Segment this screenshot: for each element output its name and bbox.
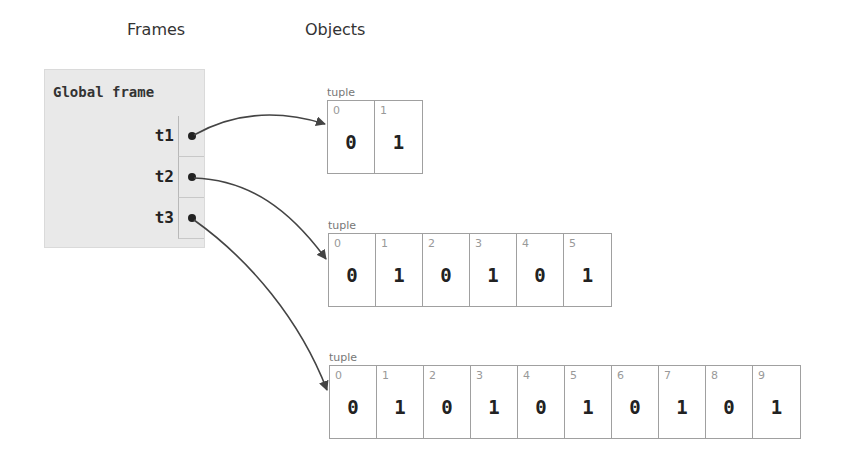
variable-name: t1 bbox=[155, 126, 174, 145]
cell-index: 0 bbox=[334, 237, 341, 250]
cell-index: 3 bbox=[475, 237, 482, 250]
tuple-cell: 11 bbox=[376, 234, 423, 306]
variable-row-t2: t2 bbox=[43, 157, 204, 198]
tuple-cell: 80 bbox=[706, 366, 753, 438]
cell-index: 0 bbox=[335, 369, 342, 382]
tuple-cells: 00 11 20 31 40 51 bbox=[328, 233, 612, 307]
cell-index: 5 bbox=[569, 237, 576, 250]
tuple-cell: 71 bbox=[659, 366, 706, 438]
tuple-cell: 51 bbox=[565, 366, 612, 438]
variable-slot bbox=[178, 198, 204, 239]
cell-value: 1 bbox=[377, 396, 423, 418]
tuple-object-1: tuple 00 11 bbox=[327, 100, 423, 174]
tuple-cell: 60 bbox=[612, 366, 659, 438]
cell-index: 8 bbox=[711, 369, 718, 382]
arrow-t1-icon bbox=[194, 115, 325, 135]
tuple-cell: 40 bbox=[518, 366, 565, 438]
variable-row-t1: t1 bbox=[43, 116, 204, 157]
cell-index: 1 bbox=[382, 369, 389, 382]
cell-value: 1 bbox=[376, 264, 422, 286]
cell-value: 0 bbox=[423, 264, 469, 286]
pointer-dot-icon bbox=[188, 173, 196, 181]
cell-index: 6 bbox=[617, 369, 624, 382]
tuple-cell: 20 bbox=[423, 234, 470, 306]
cell-index: 1 bbox=[380, 104, 387, 117]
cell-index: 3 bbox=[476, 369, 483, 382]
tuple-cell: 31 bbox=[471, 366, 518, 438]
cell-index: 9 bbox=[758, 369, 765, 382]
tuple-object-3: tuple 00 11 20 31 40 51 60 71 80 91 bbox=[329, 365, 801, 439]
cell-index: 2 bbox=[428, 237, 435, 250]
tuple-cells: 00 11 bbox=[327, 100, 423, 174]
cell-index: 5 bbox=[570, 369, 577, 382]
cell-index: 1 bbox=[381, 237, 388, 250]
frame-title: Global frame bbox=[53, 84, 154, 100]
global-frame: Global frame t1 t2 t3 bbox=[44, 69, 205, 248]
object-type-label: tuple bbox=[329, 351, 357, 364]
cell-value: 0 bbox=[517, 264, 563, 286]
cell-value: 0 bbox=[330, 396, 376, 418]
tuple-cell: 11 bbox=[377, 366, 424, 438]
tuple-cell: 40 bbox=[517, 234, 564, 306]
frames-header: Frames bbox=[127, 20, 185, 39]
tuple-cell: 00 bbox=[328, 101, 375, 173]
variable-name: t3 bbox=[155, 208, 174, 227]
cell-index: 0 bbox=[333, 104, 340, 117]
cell-value: 1 bbox=[471, 396, 517, 418]
cell-value: 1 bbox=[565, 396, 611, 418]
cell-value: 0 bbox=[328, 131, 374, 153]
variable-slot bbox=[178, 116, 204, 157]
object-type-label: tuple bbox=[327, 86, 355, 99]
objects-header: Objects bbox=[305, 20, 365, 39]
tuple-cells: 00 11 20 31 40 51 60 71 80 91 bbox=[329, 365, 801, 439]
pointer-dot-icon bbox=[188, 214, 196, 222]
tuple-cell: 00 bbox=[330, 366, 377, 438]
cell-index: 7 bbox=[664, 369, 671, 382]
variable-row-t3: t3 bbox=[43, 198, 204, 239]
cell-value: 0 bbox=[706, 396, 752, 418]
tuple-cell: 20 bbox=[424, 366, 471, 438]
tuple-cell: 31 bbox=[470, 234, 517, 306]
variable-slot bbox=[178, 157, 204, 198]
cell-value: 0 bbox=[424, 396, 470, 418]
cell-value: 0 bbox=[612, 396, 658, 418]
cell-value: 0 bbox=[329, 264, 375, 286]
cell-value: 1 bbox=[659, 396, 705, 418]
cell-value: 1 bbox=[375, 131, 422, 153]
cell-value: 1 bbox=[753, 396, 800, 418]
cell-value: 0 bbox=[518, 396, 564, 418]
tuple-object-2: tuple 00 11 20 31 40 51 bbox=[328, 233, 612, 307]
cell-value: 1 bbox=[564, 264, 611, 286]
cell-index: 4 bbox=[523, 369, 530, 382]
arrow-t2-icon bbox=[194, 178, 326, 259]
tuple-cell: 51 bbox=[564, 234, 611, 306]
cell-index: 2 bbox=[429, 369, 436, 382]
object-type-label: tuple bbox=[328, 219, 356, 232]
tuple-cell: 91 bbox=[753, 366, 800, 438]
pointer-dot-icon bbox=[188, 132, 196, 140]
arrow-t3-icon bbox=[194, 220, 327, 390]
tuple-cell: 00 bbox=[329, 234, 376, 306]
cell-value: 1 bbox=[470, 264, 516, 286]
cell-index: 4 bbox=[522, 237, 529, 250]
variable-name: t2 bbox=[155, 167, 174, 186]
tuple-cell: 11 bbox=[375, 101, 422, 173]
